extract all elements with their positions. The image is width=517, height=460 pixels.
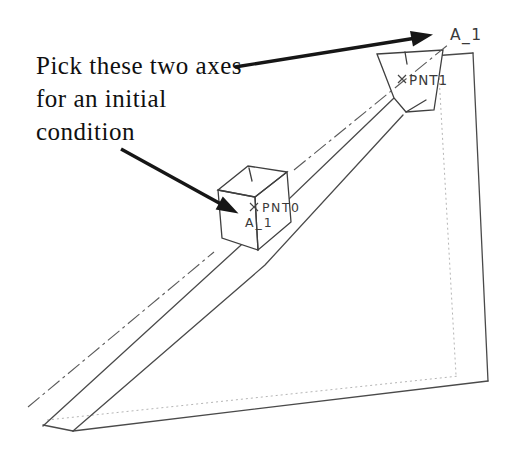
figure-canvas: PNT0 A_1 PNT1 A_1 Pick these two axes fo… [0, 0, 517, 460]
arrow-head-icon [410, 31, 433, 47]
pnt1-label: PNT1 [409, 72, 448, 88]
block-axis-label[interactable]: A_1 [245, 215, 274, 230]
wedge-hidden-back-right-edge [438, 58, 456, 375]
callout-arrow-to-block-axis [121, 149, 239, 214]
wedge-right-edge [473, 53, 488, 381]
wedge-bottom-edge [73, 381, 488, 431]
annotation-line-2: for an initial [36, 82, 242, 115]
annotation-line-3: condition [36, 115, 242, 148]
wedge-incline-front-edge [73, 115, 403, 431]
wedge-hidden-back-bottom-edge [47, 376, 459, 420]
ramp-axis-lower-segment[interactable] [28, 252, 214, 407]
annotation-line-1: Pick these two axes [36, 49, 242, 82]
annotation-text: Pick these two axes for an initial condi… [36, 49, 242, 148]
arrow-shaft [121, 149, 220, 204]
pnt0-label: PNT0 [262, 200, 300, 215]
ramp-axis-label[interactable]: A_1 [450, 26, 483, 45]
wedge-tip-edge [43, 425, 73, 431]
